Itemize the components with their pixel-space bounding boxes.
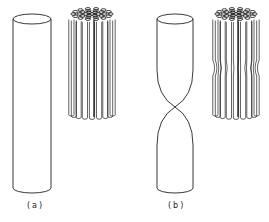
filament-bottom — [76, 117, 81, 118]
filament-end — [229, 8, 234, 11]
filament-end — [78, 9, 83, 12]
filament-bottom — [89, 118, 94, 119]
filament-bottom — [241, 118, 246, 119]
filament-end — [73, 11, 78, 14]
filament-bottom — [103, 117, 108, 118]
filament-rod — [82, 22, 87, 118]
filament-end — [250, 15, 255, 18]
filament-end — [94, 8, 99, 11]
filament-end — [106, 15, 111, 18]
filament-bundle-b-pinched — [213, 8, 259, 120]
filament-bottom — [220, 117, 225, 118]
panel-label-a: (a) — [27, 201, 44, 210]
filament-end — [245, 17, 250, 20]
filament-rod — [253, 20, 259, 115]
filament-rod — [97, 22, 102, 118]
filament-end — [222, 9, 227, 12]
filament-rod — [226, 22, 231, 118]
filament-end — [78, 17, 83, 20]
filament-end — [101, 17, 106, 20]
filament-end — [85, 18, 90, 21]
filament-end — [85, 8, 90, 11]
filament-rod — [213, 20, 219, 115]
filament-end — [101, 9, 106, 12]
filament-bottom — [82, 118, 87, 119]
filament-end — [250, 11, 255, 14]
filament-rod — [241, 22, 246, 118]
filament-end — [245, 9, 250, 12]
filament-bottom — [247, 117, 252, 118]
filament-end — [229, 18, 234, 21]
filament-bottom — [233, 118, 238, 119]
filament-end — [106, 11, 111, 14]
filament-bundle-a — [69, 8, 115, 120]
filament-end — [222, 17, 227, 20]
cylinder-b-pinched — [157, 14, 193, 193]
filament-bottom — [97, 118, 102, 119]
filament-end — [217, 11, 222, 14]
cylinder-a — [13, 14, 51, 193]
filament-end — [238, 8, 243, 11]
panel-label-b: (b) — [168, 201, 185, 210]
figure-canvas — [0, 0, 269, 222]
filament-bottom — [226, 118, 231, 119]
